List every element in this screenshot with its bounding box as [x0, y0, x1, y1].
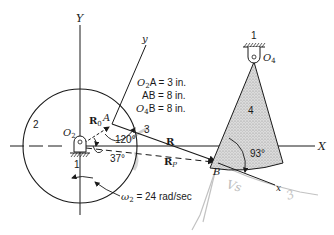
- ground-pivot-O4: [243, 43, 265, 63]
- link-3-label: 3: [144, 124, 150, 135]
- O4-label: O4: [263, 52, 276, 65]
- dimension-O2A: O2A = 3 in.: [137, 77, 186, 90]
- dimension-AB: AB = 8 in.: [142, 90, 186, 101]
- RP-label: RP: [164, 156, 177, 169]
- R0-vector: [84, 127, 109, 143]
- O2-label: O2: [63, 127, 76, 140]
- ground-1-O2-label: 1: [74, 159, 80, 170]
- point-B-label: B: [212, 166, 220, 177]
- X-axis-label: X: [317, 140, 327, 153]
- link-2-label: 2: [33, 119, 39, 130]
- angle-93-label: 93°: [250, 148, 265, 159]
- dimension-O4B: O4B = 8 in.: [136, 103, 186, 116]
- handwritten-note: 3: [284, 187, 296, 203]
- RP-vector: [86, 148, 213, 162]
- Y-axis-label: Y: [76, 12, 85, 25]
- omega-label: ω2 = 24 rad/sec: [121, 191, 192, 204]
- ground-1-O4-label: 1: [251, 30, 257, 41]
- x-axis-label: x: [276, 183, 281, 193]
- rocker-link-4: [210, 62, 283, 170]
- link-4-label: 4: [248, 105, 254, 116]
- angle-37-label: 37°: [110, 153, 125, 164]
- angle-120-label: 120°: [115, 134, 136, 145]
- R0-label: R0: [89, 115, 102, 128]
- y-axis-label: y: [141, 33, 148, 44]
- R-label: R: [166, 136, 175, 147]
- linkage-diagram: Y y X x 2 3 4 1 1 O2 O4 A B R0 R RP 120°…: [0, 0, 334, 235]
- dimensions-list: O2A = 3 in. AB = 8 in. O4B = 8 in.: [136, 77, 186, 116]
- handwritten-vs: Vs: [225, 177, 243, 194]
- omega-leader: [95, 182, 120, 196]
- point-A-label: A: [102, 112, 110, 123]
- omega-rotation-arrow: [72, 177, 93, 179]
- angle-theta-tick: [94, 138, 96, 146]
